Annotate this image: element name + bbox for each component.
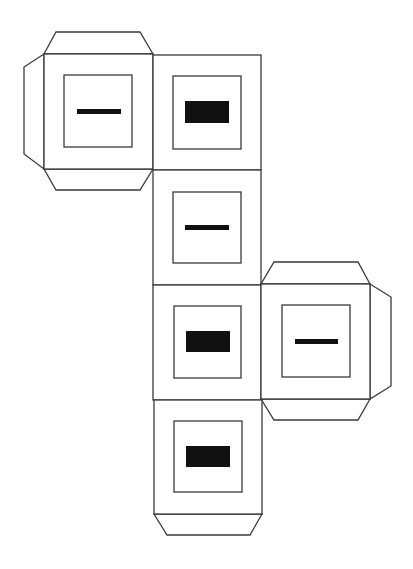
thick-block-mark [186,331,230,352]
tab-right-top [261,262,370,284]
face-bottom [154,400,262,514]
thin-bar-mark [295,339,338,344]
thick-block-mark [185,101,229,123]
face-top-center [153,55,261,170]
tab-right-right [370,284,391,399]
face-middle-1 [153,170,261,285]
tab-top-left-top [44,32,153,54]
thick-block-mark [186,446,230,467]
face-right [261,284,370,399]
cube-net [0,0,413,569]
face-middle-2 [153,285,261,400]
tab-bottom-bottom [154,514,262,535]
tab-top-left-bottom [44,169,153,190]
face-top-left [44,54,153,169]
thin-bar-mark [185,225,229,230]
thin-bar-mark [77,109,121,114]
tab-right-bottom [261,399,370,420]
tab-top-left-left [24,54,44,169]
